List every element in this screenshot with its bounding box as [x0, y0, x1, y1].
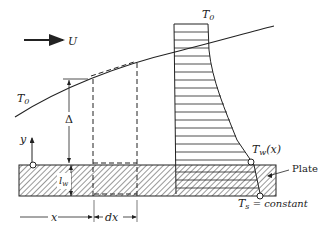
wall-temperature: Tw(x) — [248, 143, 281, 165]
t0-top-label: T0 — [202, 8, 214, 22]
svg-text:U: U — [68, 35, 78, 48]
diagram-canvas: U T0 T0 Δ y lw x dx — [0, 0, 331, 234]
origin-marker — [30, 162, 36, 168]
temperature-profile — [174, 24, 261, 198]
velocity-arrow: U — [24, 35, 78, 48]
svg-text:T0: T0 — [17, 92, 29, 106]
svg-text:T0: T0 — [202, 8, 214, 22]
svg-text:y: y — [19, 133, 27, 146]
delta-dimension: Δ — [63, 79, 88, 163]
svg-text:Ts = constant: Ts = constant — [238, 197, 309, 211]
dx-dimension: dx — [94, 211, 136, 224]
svg-text:Δ: Δ — [65, 113, 73, 126]
svg-text:dx: dx — [105, 211, 119, 224]
t0-left-label: T0 — [17, 92, 29, 106]
x-dimension: x — [20, 200, 137, 224]
y-axis: y — [19, 133, 36, 168]
svg-text:x: x — [51, 211, 58, 224]
svg-text:Plate: Plate — [292, 163, 318, 174]
svg-text:Tw(x): Tw(x) — [252, 143, 281, 157]
